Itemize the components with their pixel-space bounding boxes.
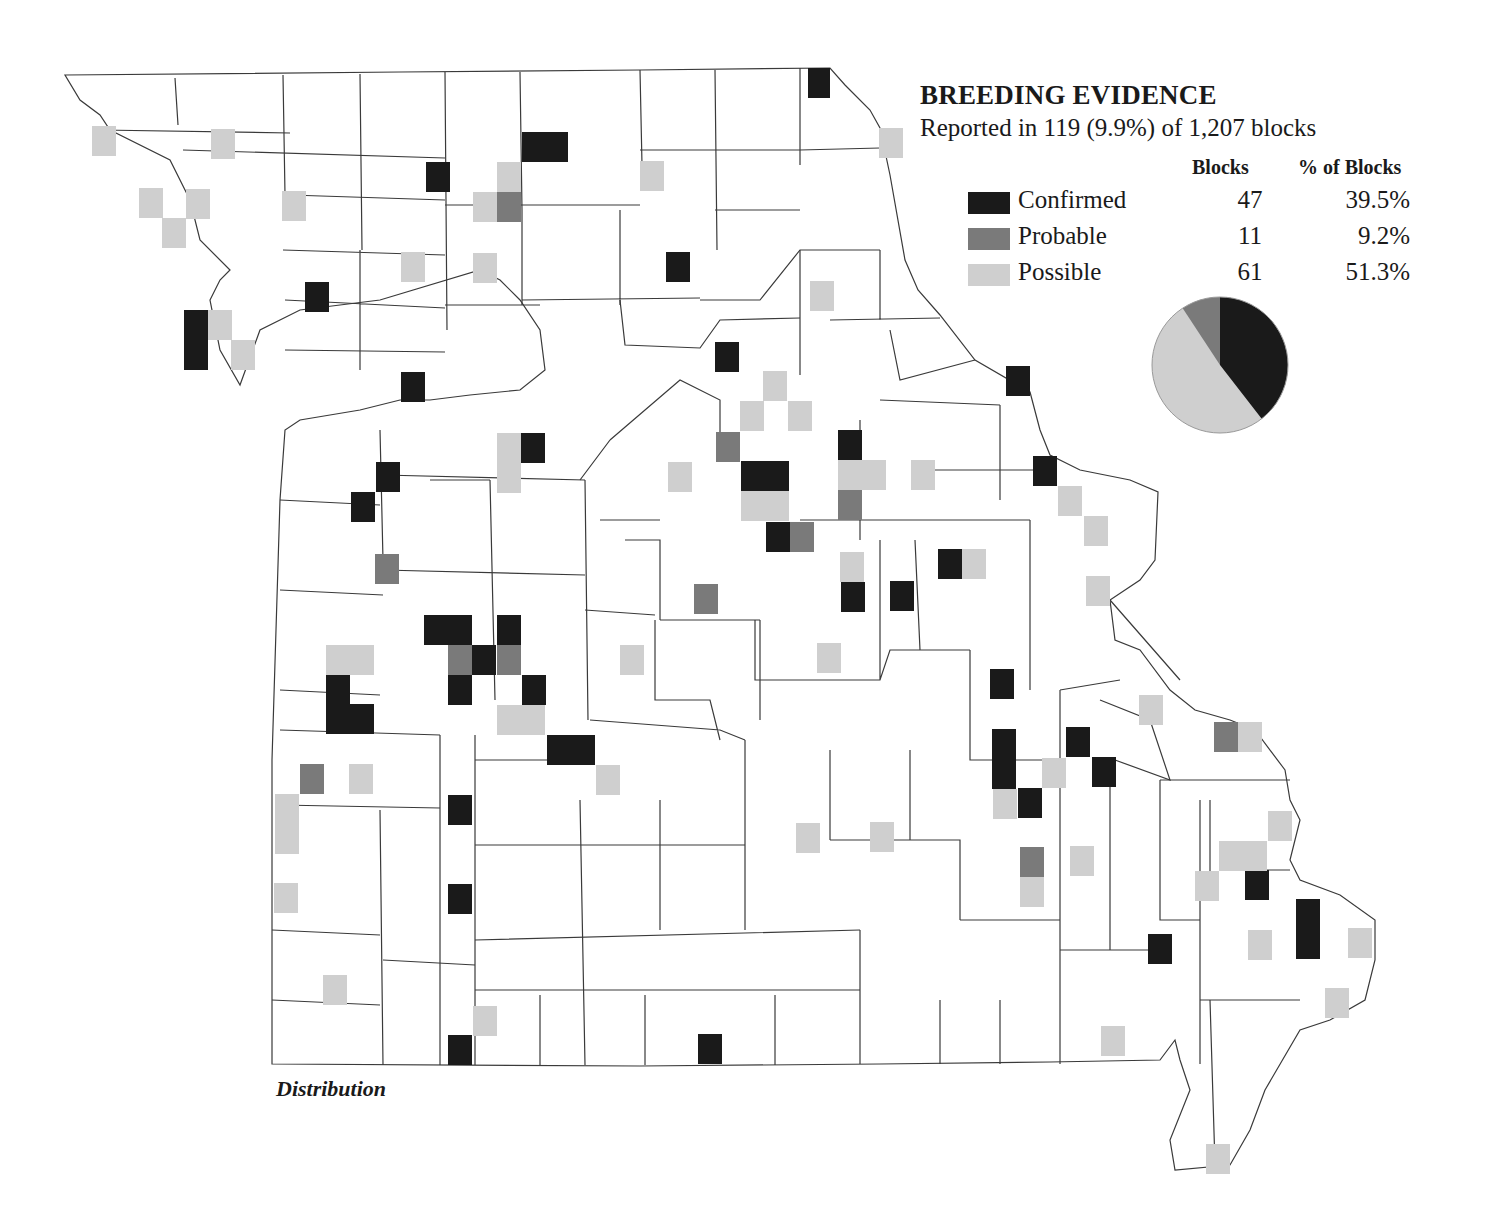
block-possible: [1042, 758, 1066, 788]
block-confirmed: [376, 462, 400, 492]
block-probable: [716, 432, 740, 462]
block-possible: [274, 883, 298, 913]
block-confirmed: [1033, 456, 1057, 486]
block-confirmed: [1066, 727, 1090, 757]
block-possible: [740, 401, 764, 431]
legend-blocks: 61: [1220, 258, 1280, 286]
block-confirmed: [448, 675, 472, 705]
block-confirmed: [1148, 934, 1172, 964]
legend-label: Confirmed: [1018, 186, 1126, 214]
block-possible: [282, 191, 306, 221]
block-possible: [788, 401, 812, 431]
block-confirmed: [448, 795, 472, 825]
probable-swatch: [968, 228, 1010, 250]
block-probable: [838, 490, 862, 520]
block-possible: [473, 192, 497, 222]
legend-blocks: 11: [1220, 222, 1280, 250]
block-possible: [796, 823, 820, 853]
confirmed-swatch: [968, 192, 1010, 214]
block-possible: [1020, 877, 1044, 907]
block-possible: [1058, 486, 1082, 516]
block-confirmed: [990, 669, 1014, 699]
block-possible: [1238, 722, 1262, 752]
block-confirmed: [401, 372, 425, 402]
block-probable: [497, 645, 521, 675]
block-possible: [993, 789, 1017, 819]
block-confirmed: [448, 1035, 472, 1065]
block-possible: [1084, 516, 1108, 546]
block-confirmed: [1006, 366, 1030, 396]
block-possible: [1070, 846, 1094, 876]
block-possible: [1268, 811, 1292, 841]
possible-swatch: [968, 264, 1010, 286]
block-confirmed: [841, 582, 865, 612]
block-possible: [668, 462, 692, 492]
block-possible: [1195, 871, 1219, 901]
legend-pct: 39.5%: [1300, 186, 1410, 214]
legend-col-pct: % of Blocks: [1298, 156, 1401, 179]
block-possible: [349, 764, 373, 794]
block-confirmed: [426, 162, 450, 192]
block-possible: [497, 162, 521, 192]
block-confirmed: [326, 674, 350, 734]
block-possible: [497, 705, 545, 735]
block-probable: [1214, 722, 1238, 752]
block-confirmed: [1018, 788, 1042, 818]
legend-label: Probable: [1018, 222, 1107, 250]
block-possible: [326, 645, 374, 675]
block-confirmed: [305, 282, 329, 312]
block-confirmed: [741, 461, 789, 491]
block-possible: [838, 460, 886, 490]
block-confirmed: [472, 645, 496, 675]
block-possible: [139, 188, 163, 218]
block-possible: [1139, 695, 1163, 725]
block-confirmed: [522, 675, 546, 705]
block-confirmed: [715, 342, 739, 372]
block-confirmed: [184, 310, 208, 370]
legend-title: BREEDING EVIDENCE: [920, 78, 1440, 112]
block-possible: [1325, 988, 1349, 1018]
legend-subtitle: Reported in 119 (9.9%) of 1,207 blocks: [920, 112, 1440, 144]
block-possible: [911, 460, 935, 490]
block-possible: [92, 126, 116, 156]
block-confirmed: [938, 549, 962, 579]
block-confirmed: [838, 430, 862, 460]
map-caption: Distribution: [276, 1076, 386, 1102]
block-confirmed: [522, 132, 568, 162]
block-confirmed: [666, 252, 690, 282]
block-possible: [763, 371, 787, 401]
legend-row-probable: Probable 11 9.2%: [968, 222, 1438, 258]
block-possible: [1219, 841, 1267, 871]
legend-row-possible: Possible 61 51.3%: [968, 258, 1438, 294]
block-probable: [497, 192, 521, 222]
block-possible: [620, 645, 644, 675]
legend-pct: 9.2%: [1300, 222, 1410, 250]
block-possible: [1348, 928, 1372, 958]
block-probable: [375, 554, 399, 584]
block-possible: [497, 433, 521, 493]
block-possible: [1206, 1144, 1230, 1174]
block-confirmed: [698, 1034, 722, 1064]
block-possible: [741, 491, 789, 521]
block-probable: [300, 764, 324, 794]
block-possible: [870, 822, 894, 852]
block-possible: [879, 128, 903, 158]
block-confirmed: [1092, 757, 1116, 787]
legend-col-blocks: Blocks: [1192, 156, 1249, 179]
block-probable: [448, 645, 472, 675]
block-possible: [323, 975, 347, 1005]
legend-label: Possible: [1018, 258, 1101, 286]
block-possible: [473, 1006, 497, 1036]
block-confirmed: [1296, 899, 1320, 959]
block-confirmed: [890, 581, 914, 611]
block-possible: [208, 310, 232, 340]
block-confirmed: [992, 729, 1016, 789]
legend-pct: 51.3%: [1300, 258, 1410, 286]
block-possible: [186, 189, 210, 219]
block-confirmed: [497, 615, 521, 645]
block-possible: [962, 549, 986, 579]
block-possible: [231, 340, 255, 370]
block-confirmed: [766, 522, 790, 552]
block-confirmed: [350, 704, 374, 734]
legend-row-confirmed: Confirmed 47 39.5%: [968, 186, 1438, 222]
